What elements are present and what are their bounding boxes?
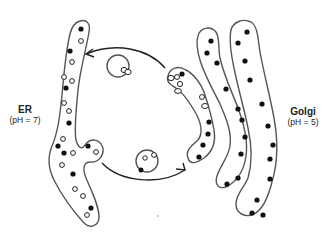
cargo-dot xyxy=(88,205,93,210)
golgi-label: Golgi (pH = 5) xyxy=(281,106,325,127)
speck xyxy=(157,215,159,217)
receptor-dot xyxy=(70,79,75,84)
cargo-dot xyxy=(70,171,75,176)
golgi-cisterna-3 xyxy=(230,20,277,217)
cargo-dot xyxy=(61,150,66,155)
cargo-dot xyxy=(67,48,72,53)
receptor-dot xyxy=(62,101,67,106)
er-ph: (pH = 7) xyxy=(6,116,44,126)
cargo-dot xyxy=(78,26,83,31)
receptor-dot xyxy=(81,194,86,199)
receptor-dot xyxy=(61,137,66,142)
receptor-dot xyxy=(73,187,78,192)
retrograde-vesicle xyxy=(107,55,131,77)
cargo-dot xyxy=(66,120,71,125)
receptor-dot xyxy=(79,39,84,44)
er-label: ER (pH = 7) xyxy=(6,104,44,125)
cargo-dot xyxy=(63,85,68,90)
receptor-dot xyxy=(71,151,76,156)
receptor-dot xyxy=(85,213,90,218)
receptor-dot xyxy=(67,109,72,114)
anterograde-vesicle xyxy=(136,150,158,173)
receptor-dot xyxy=(94,150,99,155)
golgi-cisterna-1 xyxy=(167,68,214,163)
receptor-dot xyxy=(62,75,67,80)
cargo-dot xyxy=(55,143,60,148)
golgi-ph: (pH = 5) xyxy=(281,118,325,128)
receptor-dot xyxy=(60,163,65,168)
er-name: ER xyxy=(6,104,44,116)
golgi-name: Golgi xyxy=(281,106,325,118)
receptor-dot xyxy=(70,60,75,65)
cargo-dot xyxy=(85,143,90,148)
